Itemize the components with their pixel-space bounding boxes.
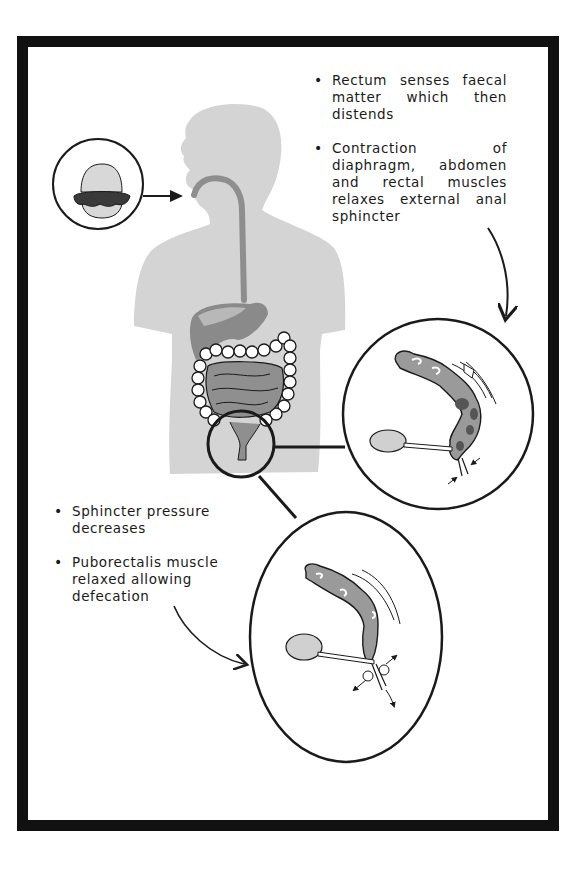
top-notes: Rectum senses faecal matter which then d… — [312, 72, 507, 242]
inset-rectum-distended — [343, 319, 533, 509]
arrow-to-mouth-icon — [170, 190, 183, 202]
inset-rectum-relaxed — [250, 512, 442, 762]
note-contraction: Contraction of diaphragm, abdomen and re… — [312, 140, 507, 225]
note-sphincter-pressure: Sphincter pressure decreases — [52, 503, 237, 537]
food-inset — [53, 139, 183, 229]
bottom-notes: Sphincter pressure decreases Puborectali… — [52, 503, 237, 622]
note-puborectalis: Puborectalis muscle relaxed allowing def… — [52, 554, 237, 605]
note-rectum-senses: Rectum senses faecal matter which then d… — [312, 72, 507, 123]
